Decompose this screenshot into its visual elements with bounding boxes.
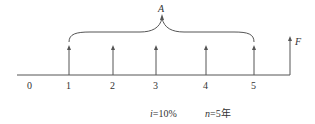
annuity-arrows	[67, 45, 256, 75]
interest-rate-value: =10%	[153, 108, 177, 119]
future-value-label: F	[294, 36, 302, 47]
annuity-brace	[69, 18, 254, 42]
periods-label: n=5年	[205, 107, 231, 119]
arrow-up-icon	[252, 45, 256, 50]
arrow-up-icon	[288, 36, 292, 41]
interest-rate-label: i=10%	[150, 108, 177, 119]
arrow-up-icon	[154, 45, 158, 50]
period-labels: 0 1 2 3 4 5	[27, 80, 256, 91]
arrow-up-icon	[111, 45, 115, 50]
period-label-0: 0	[27, 80, 32, 91]
arrow-up-icon	[160, 14, 164, 20]
period-label-4: 4	[203, 80, 208, 91]
periods-value: =5年	[210, 107, 231, 119]
parameters: i=10% n=5年	[150, 107, 231, 119]
arrow-up-icon	[204, 45, 208, 50]
arrow-up-icon	[67, 45, 71, 50]
period-label-2: 2	[110, 80, 115, 91]
period-label-3: 3	[153, 80, 158, 91]
annuity-label: A	[157, 3, 165, 14]
period-label-5: 5	[251, 80, 256, 91]
cash-flow-diagram: F A 0 1 2 3 4 5 i=10% n=5年	[0, 0, 315, 124]
period-label-1: 1	[66, 80, 71, 91]
